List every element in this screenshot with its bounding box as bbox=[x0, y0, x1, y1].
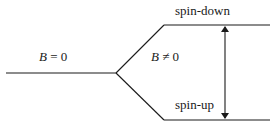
field-on-variable: B bbox=[151, 49, 159, 64]
field-on-relation: ≠ bbox=[159, 49, 173, 64]
spin-splitting-diagram: B = 0 B ≠ 0 spin-down spin-up bbox=[0, 0, 276, 126]
field-off-variable: B bbox=[39, 49, 47, 64]
field-on-label: B ≠ 0 bbox=[151, 50, 179, 63]
field-on-value: 0 bbox=[173, 49, 180, 64]
spin-up-label: spin-up bbox=[175, 98, 214, 111]
split-down-line bbox=[116, 73, 164, 120]
field-off-relation: = bbox=[47, 49, 61, 64]
spin-down-label: spin-down bbox=[175, 4, 230, 17]
field-off-value: 0 bbox=[61, 49, 68, 64]
field-off-label: B = 0 bbox=[39, 50, 67, 63]
